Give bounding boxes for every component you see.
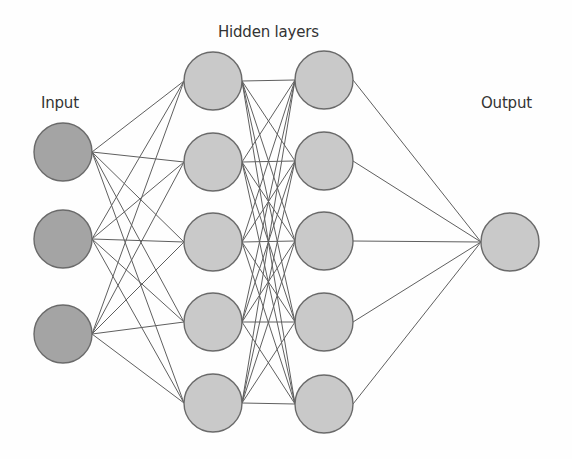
connection-line [242,403,295,404]
connection-line [353,161,481,242]
hidden-1-node-5 [184,374,242,432]
hidden-2-node-4 [295,293,353,351]
connections [92,80,481,404]
connection-line [92,152,184,242]
hidden-2-node-5 [295,375,353,433]
connection-line [242,80,295,81]
hidden-layers-label: Hidden layers [218,25,319,40]
hidden-1-node-3 [184,213,242,271]
input-node-1 [34,123,92,181]
input-node-2 [34,210,92,268]
connection-line [92,239,184,242]
connection-line [92,239,184,403]
network-graph [0,0,572,459]
output-layer-label: Output [481,96,532,111]
connection-line [92,239,184,322]
connection-line [353,80,481,242]
connection-line [92,322,184,334]
input-layer-label: Input [41,96,79,111]
hidden-1-node-1 [184,52,242,110]
hidden-2-node-3 [295,212,353,270]
connection-line [353,242,481,404]
input-node-3 [34,305,92,363]
connection-line [92,334,184,403]
hidden-1-node-4 [184,293,242,351]
hidden-2-node-2 [295,132,353,190]
connection-line [92,81,184,152]
connection-line [92,152,184,403]
connection-line [92,162,184,239]
connection-line [353,242,481,322]
output-node-1 [481,213,539,271]
neural-network-diagram: Input Hidden layers Output [0,0,572,459]
connection-line [92,162,184,334]
hidden-1-node-2 [184,133,242,191]
hidden-2-node-1 [295,51,353,109]
connection-line [353,241,481,242]
